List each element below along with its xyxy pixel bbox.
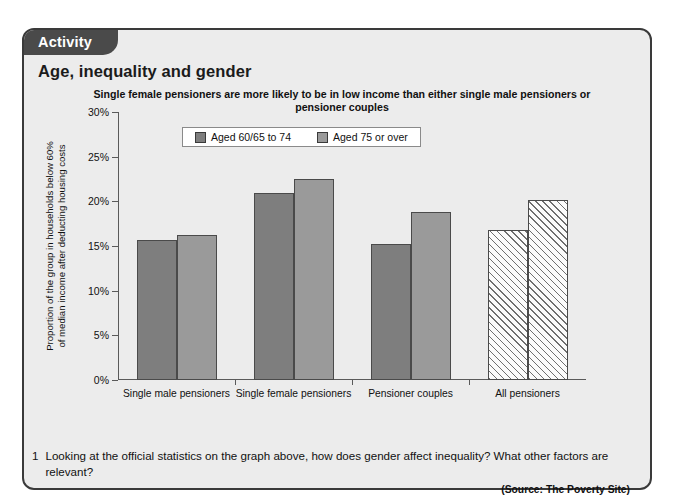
x-axis-separator-tick bbox=[235, 380, 236, 385]
y-axis-title-line: Proportion of the group in households be… bbox=[44, 141, 56, 351]
activity-tab-label: Activity bbox=[24, 30, 118, 55]
question-block: 1 Looking at the official statistics on … bbox=[32, 448, 646, 479]
activity-panel: Activity Age, inequality and gender Sing… bbox=[22, 28, 652, 490]
bar bbox=[488, 230, 528, 380]
x-axis-separator-tick bbox=[469, 380, 470, 385]
bar bbox=[528, 200, 568, 380]
y-axis-tick bbox=[112, 380, 118, 381]
bar bbox=[411, 212, 451, 380]
bar bbox=[371, 244, 411, 380]
x-axis-category-label: Single male pensioners bbox=[123, 388, 230, 399]
question-number: 1 bbox=[32, 448, 38, 479]
bar bbox=[137, 240, 177, 380]
bar-series-group bbox=[118, 112, 586, 380]
y-axis-tick-label: 5% bbox=[94, 329, 109, 341]
bar bbox=[177, 235, 217, 380]
y-axis-title-line: of median income after deducting housing… bbox=[56, 141, 68, 351]
y-axis-tick-label: 20% bbox=[88, 195, 109, 207]
y-axis-title: Proportion of the group in households be… bbox=[44, 141, 68, 351]
x-axis-separator-tick bbox=[352, 380, 353, 385]
y-axis-tick-label: 25% bbox=[88, 151, 109, 163]
y-axis-tick-label: 15% bbox=[88, 240, 109, 252]
y-axis-tick-label: 30% bbox=[88, 106, 109, 118]
y-axis-tick-label: 10% bbox=[88, 285, 109, 297]
x-axis-category-label: Pensioner couples bbox=[368, 388, 453, 399]
x-axis-category-label: Single female pensioners bbox=[236, 388, 352, 399]
plot-area: Proportion of the group in households be… bbox=[118, 112, 586, 380]
question-text: Looking at the official statistics on th… bbox=[45, 448, 646, 479]
chart-source-note: (Source: The Poverty Site) bbox=[501, 484, 630, 495]
x-axis-category-label: All pensioners bbox=[495, 388, 560, 399]
page-title: Age, inequality and gender bbox=[38, 62, 251, 81]
bar bbox=[254, 193, 294, 380]
y-axis-tick-label: 0% bbox=[94, 374, 109, 386]
page-root: Activity Age, inequality and gender Sing… bbox=[0, 0, 678, 504]
chart-title: Single female pensioners are more likely… bbox=[72, 88, 612, 114]
bar bbox=[294, 179, 334, 380]
chart-container: Single female pensioners are more likely… bbox=[32, 88, 646, 418]
